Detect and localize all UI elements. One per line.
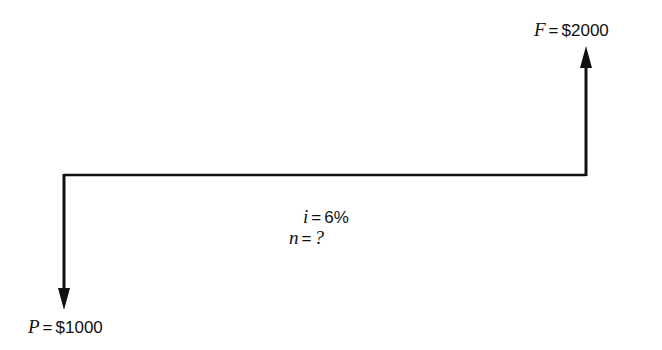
interest-rate-label: i=6% <box>303 206 349 228</box>
equals-sign: = <box>549 21 559 40</box>
present-value-label: P=$1000 <box>28 316 103 338</box>
periods-value: ? <box>314 227 324 248</box>
future-value-label: F=$2000 <box>534 19 609 41</box>
interest-rate-value: 6% <box>324 208 349 227</box>
future-value-symbol: F <box>534 19 546 40</box>
arrow-up-icon <box>580 46 592 68</box>
equals-sign: = <box>311 208 321 227</box>
equals-sign: = <box>302 229 312 248</box>
equals-sign: = <box>43 318 53 337</box>
interest-rate-symbol: i <box>303 206 308 227</box>
arrow-down-icon <box>58 288 70 310</box>
cash-flow-diagram <box>0 0 662 350</box>
present-value-amount: $1000 <box>56 318 103 337</box>
periods-label: n=? <box>289 227 324 249</box>
present-value-symbol: P <box>28 316 40 337</box>
future-value-amount: $2000 <box>562 21 609 40</box>
periods-symbol: n <box>289 227 299 248</box>
